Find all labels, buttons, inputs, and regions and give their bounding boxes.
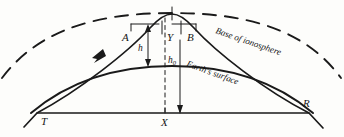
label-true-height-h0: h0 xyxy=(168,55,177,66)
earth-surface-curve xyxy=(31,66,313,113)
label-transmitter-t: T xyxy=(41,115,48,127)
label-point-b: B xyxy=(187,31,194,43)
label-ground-point-x: X xyxy=(160,116,169,128)
ionosphere-propagation-diagram: A Y B h h0 T X R Base of ionosphere Eart… xyxy=(0,0,344,137)
caption-base-of-ionosphere: Base of ionosphere xyxy=(214,25,282,57)
label-point-y: Y xyxy=(167,31,175,43)
ionosphere-curve xyxy=(2,13,341,78)
height-h-arrowhead-down xyxy=(145,59,151,67)
label-receiver-r: R xyxy=(302,97,310,109)
label-point-a: A xyxy=(121,31,129,43)
label-virtual-height-h: h xyxy=(138,43,143,53)
direction-arrow-icon xyxy=(92,49,106,63)
